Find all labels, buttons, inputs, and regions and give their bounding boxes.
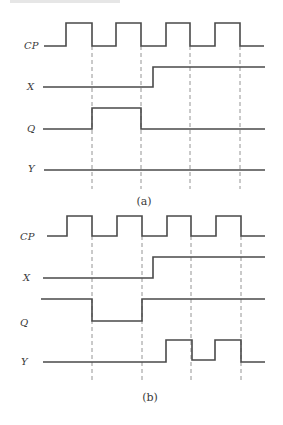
waveform-q [41,299,265,321]
waveform-q [43,108,265,129]
signal-label-y: Y [21,356,29,367]
panel-caption-b: (b) [142,391,158,404]
signal-label-q: Q [20,317,28,328]
signal-label-cp: CP [20,231,35,242]
signal-label-x: X [22,272,31,283]
waveform-x [43,67,265,87]
signal-label-x: X [26,81,35,92]
signal-label-cp: CP [24,40,39,51]
signal-label-q: Q [27,123,35,134]
panel-caption-a: (a) [136,195,151,208]
waveform-cp [44,23,264,46]
waveform-cp [47,216,265,236]
timing-diagram: CP X Q Y (a) CP X Q Y (b) [0,0,283,425]
waveform-y [43,340,265,362]
panel-b: CP X Q Y (b) [20,216,265,404]
waveform-x [43,257,265,278]
signal-label-y: Y [28,163,36,174]
panel-a: CP X Q Y (a) [24,23,265,208]
